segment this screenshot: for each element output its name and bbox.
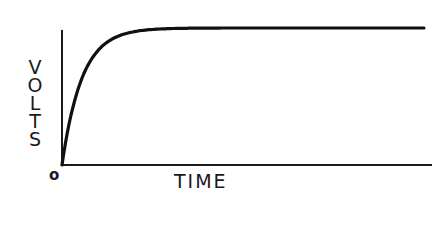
- x-axis-label: TIME: [174, 170, 228, 192]
- voltage-curve: [62, 28, 424, 165]
- y-axis-label: V O L T S: [26, 58, 44, 148]
- origin-label: o: [49, 166, 59, 184]
- y-label-letter: S: [26, 130, 44, 148]
